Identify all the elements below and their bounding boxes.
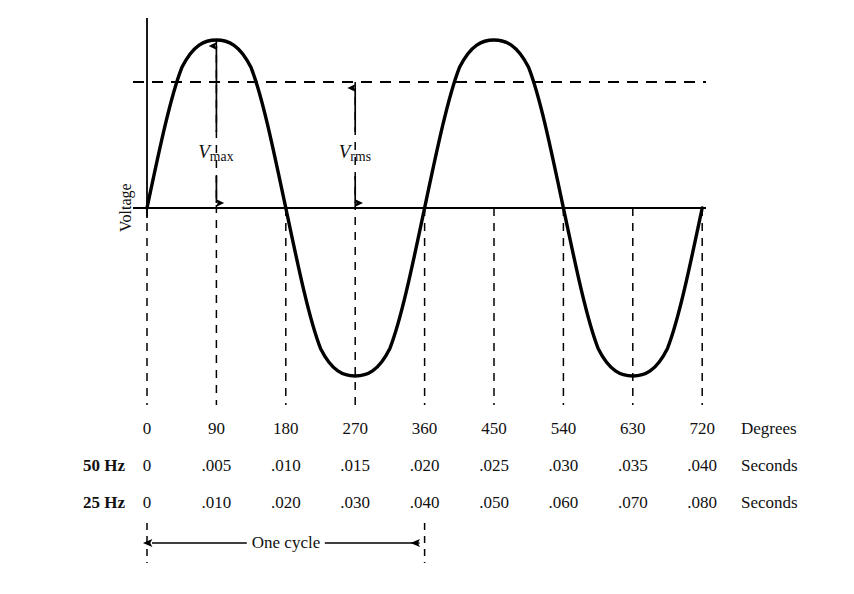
seconds50-unit-label: Seconds (741, 457, 798, 474)
vrms-label: Vrms (339, 142, 372, 164)
seconds50-tick-0: 0 (143, 457, 152, 474)
degrees-tick-720: 720 (689, 420, 715, 437)
sine-wave-figure: Voltage Vmax Vrms One cycle 0 90 180 270… (0, 0, 854, 594)
degrees-tick-180: 180 (273, 420, 299, 437)
seconds25-tick-0: 0 (143, 494, 152, 511)
seconds50-tick-6: .030 (549, 457, 579, 474)
vmax-symbol: V (198, 141, 210, 162)
y-axis-title: Voltage (118, 183, 134, 232)
seconds25-tick-4: .040 (410, 494, 440, 511)
degrees-tick-540: 540 (551, 420, 577, 437)
degrees-tick-270: 270 (342, 420, 368, 437)
one-cycle-label: One cycle (247, 534, 325, 551)
degrees-tick-450: 450 (481, 420, 507, 437)
degrees-tick-0: 0 (143, 420, 152, 437)
seconds50-tick-7: .035 (618, 457, 648, 474)
row-title-25hz: 25 Hz (83, 494, 125, 511)
degrees-unit-label: Degrees (741, 420, 797, 437)
seconds50-tick-8: .040 (687, 457, 717, 474)
seconds50-tick-4: .020 (410, 457, 440, 474)
seconds25-tick-6: .060 (549, 494, 579, 511)
seconds50-tick-1: .005 (202, 457, 232, 474)
seconds50-tick-2: .010 (271, 457, 301, 474)
seconds25-tick-3: .030 (340, 494, 370, 511)
vmax-label: Vmax (198, 142, 234, 164)
seconds50-tick-5: .025 (479, 457, 509, 474)
degrees-tick-90: 90 (208, 420, 225, 437)
seconds25-tick-8: .080 (687, 494, 717, 511)
degrees-tick-360: 360 (412, 420, 438, 437)
degrees-tick-630: 630 (620, 420, 646, 437)
seconds25-tick-7: .070 (618, 494, 648, 511)
seconds25-tick-2: .020 (271, 494, 301, 511)
seconds50-tick-3: .015 (340, 457, 370, 474)
seconds25-unit-label: Seconds (741, 494, 798, 511)
vrms-subscript: rms (350, 149, 371, 164)
vrms-symbol: V (339, 141, 351, 162)
degree-gridlines (147, 40, 702, 405)
row-title-50hz: 50 Hz (83, 457, 125, 474)
seconds25-tick-1: .010 (202, 494, 232, 511)
seconds25-tick-5: .050 (479, 494, 509, 511)
vmax-subscript: max (210, 149, 234, 164)
